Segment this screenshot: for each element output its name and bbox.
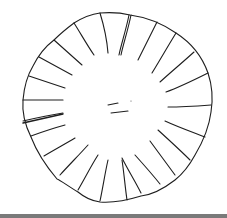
bottom-border-strip xyxy=(0,214,227,218)
center-marks xyxy=(108,103,128,113)
sketch-canvas xyxy=(0,0,227,214)
outer-circle xyxy=(23,13,212,203)
wheel-sketch-icon xyxy=(0,0,227,214)
center-dot xyxy=(130,100,131,101)
